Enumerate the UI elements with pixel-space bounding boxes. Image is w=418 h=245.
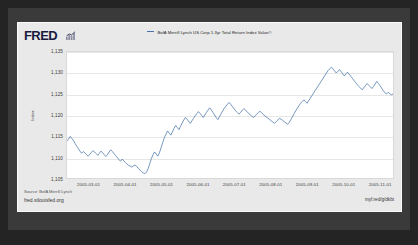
plot-wrapper: Index 1,1351,1301,1251,1201,1151,1101,10…	[18, 46, 403, 189]
fred-site-url[interactable]: fred.stlouisfed.org	[24, 197, 64, 203]
card-footer: Source: BofA Merrill Lynch fred.stlouisf…	[18, 187, 401, 211]
card-header: FRED BofA Merrill Lynch US Corp 1-3yr To…	[18, 23, 401, 46]
y-axis-tick-label: 1,135	[19, 49, 63, 54]
y-axis: Index 1,1351,1301,1251,1201,1151,1101,10…	[18, 51, 63, 179]
legend-label: BofA Merrill Lynch US Corp 1-3yr Total R…	[157, 30, 271, 35]
fred-graph-card: FRED BofA Merrill Lynch US Corp 1-3yr To…	[17, 22, 402, 212]
y-axis-tick-label: 1,115	[19, 134, 63, 139]
graph-short-link[interactable]: myf.red/g/dkbt	[365, 197, 394, 202]
series-line-bofa-corp-1-3yr	[67, 67, 393, 174]
chart-legend: BofA Merrill Lynch US Corp 1-3yr Total R…	[18, 30, 401, 35]
y-axis-tick-label: 1,105	[19, 177, 63, 182]
y-axis-tick-label: 1,125	[19, 91, 63, 96]
series-line-chart	[67, 52, 393, 178]
legend-color-swatch	[147, 31, 154, 32]
plot-area	[66, 51, 394, 179]
source-note: Source: BofA Merrill Lynch	[24, 189, 72, 194]
y-axis-tick-label: 1,110	[19, 155, 63, 160]
y-axis-tick-label: 1,120	[19, 113, 63, 118]
y-axis-tick-label: 1,130	[19, 70, 63, 75]
